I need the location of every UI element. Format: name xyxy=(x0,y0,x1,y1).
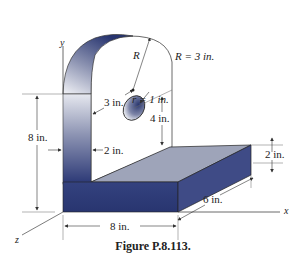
base-front-face xyxy=(63,182,178,212)
base-length-label: 8 in. xyxy=(110,221,130,232)
hole-height-label: 4 in. xyxy=(150,113,170,124)
outer-radius-label: R = 3 in. xyxy=(175,51,214,62)
z-axis xyxy=(22,212,63,235)
outer-radius-symbol: R xyxy=(133,50,140,61)
hole-radius-label: r = 1 in. xyxy=(132,94,169,105)
arm-thickness-label: 2 in. xyxy=(104,145,124,156)
figure-caption: Figure P.8.113. xyxy=(0,239,306,254)
y-axis-label: y xyxy=(60,38,64,48)
total-height-label: 8 in. xyxy=(28,132,48,143)
base-height-label: 2 in. xyxy=(265,149,285,160)
arm-thickness-top-label: 3 in. xyxy=(104,97,124,108)
x-axis-label: x xyxy=(284,206,288,216)
base-depth-label: 6 in. xyxy=(203,194,223,205)
